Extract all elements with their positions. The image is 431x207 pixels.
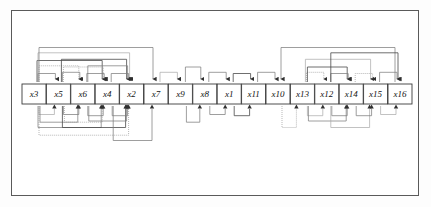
edge-x10-to-x13: [282, 106, 296, 128]
node-label-x6: x6: [78, 89, 88, 99]
edge-x4-to-x2: [111, 74, 128, 83]
edge-x3-to-x4: [38, 106, 101, 128]
edge-x5-to-x2: [61, 59, 126, 82]
node-x2[interactable]: x2: [120, 84, 144, 104]
edge-x1-to-x11: [233, 74, 250, 83]
node-x16[interactable]: x16: [388, 84, 412, 104]
edge-x11-to-x10: [258, 72, 275, 82]
figure-container: x3x5x6x4x2x7x9x8x1x11x10x13x12x14x15x16: [0, 0, 431, 207]
edge-x14-to-x15: [355, 74, 372, 83]
edge-x3-to-x2: [38, 53, 130, 82]
node-x10[interactable]: x10: [266, 84, 290, 104]
node-label-x2: x2: [126, 89, 136, 99]
node-x8[interactable]: x8: [193, 84, 217, 104]
edge-x3-to-x5: [39, 106, 54, 115]
node-x7[interactable]: x7: [144, 84, 168, 104]
node-label-x7: x7: [151, 89, 161, 99]
edge-x5-to-x4: [63, 67, 103, 82]
node-label-x4: x4: [102, 89, 112, 99]
arrowhead-into-x13: [294, 105, 298, 109]
node-x13[interactable]: x13: [290, 84, 314, 104]
node-x6[interactable]: x6: [71, 84, 95, 104]
edge-x13-to-x15: [305, 59, 370, 82]
edge-x12-to-x14: [331, 74, 348, 83]
arrowhead-into-x5: [52, 105, 56, 109]
edge-x13-to-x12: [307, 106, 322, 116]
node-x4[interactable]: x4: [95, 84, 119, 104]
edge-x3-to-x6: [39, 66, 79, 82]
edge-x6-to-x2: [89, 106, 127, 121]
node-label-x8: x8: [200, 89, 210, 99]
arrowhead-into-x16: [394, 105, 398, 109]
arrowhead-into-x1: [223, 105, 227, 109]
arrowhead-into-x8: [198, 105, 202, 109]
edge-x13-to-x14: [307, 67, 347, 82]
node-label-x15: x15: [368, 89, 382, 99]
edge-x7-to-x9: [160, 72, 177, 82]
edge-x13-to-x14: [308, 106, 346, 121]
node-label-x12: x12: [319, 89, 333, 99]
node-label-x1: x1: [224, 89, 234, 99]
edge-x5-to-x2: [62, 106, 125, 128]
edge-x6-to-x2: [88, 66, 128, 82]
node-label-x16: x16: [393, 89, 407, 99]
nodes-layer: x3x5x6x4x2x7x9x8x1x11x10x13x12x14x15x16: [22, 84, 412, 104]
node-label-x10: x10: [271, 89, 285, 99]
edge-x1-to-x11: [234, 106, 249, 116]
edge-x13-to-x12: [306, 72, 323, 82]
edge-x3-to-x5: [38, 74, 55, 83]
edge-x8-to-x1: [209, 72, 226, 82]
edge-x5-to-x4: [64, 106, 102, 122]
arrowhead-into-x11: [247, 105, 251, 109]
node-x15[interactable]: x15: [364, 84, 388, 104]
node-label-x3: x3: [29, 89, 39, 99]
node-label-x11: x11: [246, 89, 259, 99]
edge-x3-to-x2: [39, 106, 129, 135]
node-x9[interactable]: x9: [168, 84, 192, 104]
node-label-x5: x5: [53, 89, 63, 99]
edge-x15-to-x16: [380, 72, 397, 82]
edge-x4-to-x7: [113, 106, 152, 141]
node-label-x9: x9: [175, 89, 185, 99]
node-label-x13: x13: [295, 89, 309, 99]
arrowhead-into-x7: [150, 105, 154, 109]
node-label-x14: x14: [344, 89, 358, 99]
edge-x3-to-x4: [37, 61, 102, 83]
edge-x9-to-x8: [185, 67, 200, 82]
edge-x5-to-x6: [62, 72, 79, 82]
network-graph: x3x5x6x4x2x7x9x8x1x11x10x13x12x14x15x16: [0, 0, 431, 207]
edge-x15-to-x16: [381, 106, 396, 115]
node-x5[interactable]: x5: [46, 84, 70, 104]
node-x14[interactable]: x14: [339, 84, 363, 104]
arrowhead-into-x12: [321, 105, 325, 109]
edge-x6-to-x4: [87, 74, 104, 83]
edge-x12-to-x15: [331, 106, 370, 128]
edge-x3-to-x6: [40, 106, 78, 122]
edge-x8-to-x1: [210, 106, 225, 115]
node-x1[interactable]: x1: [217, 84, 241, 104]
node-x11[interactable]: x11: [242, 84, 266, 104]
node-x3[interactable]: x3: [22, 84, 46, 104]
node-x12[interactable]: x12: [315, 84, 339, 104]
